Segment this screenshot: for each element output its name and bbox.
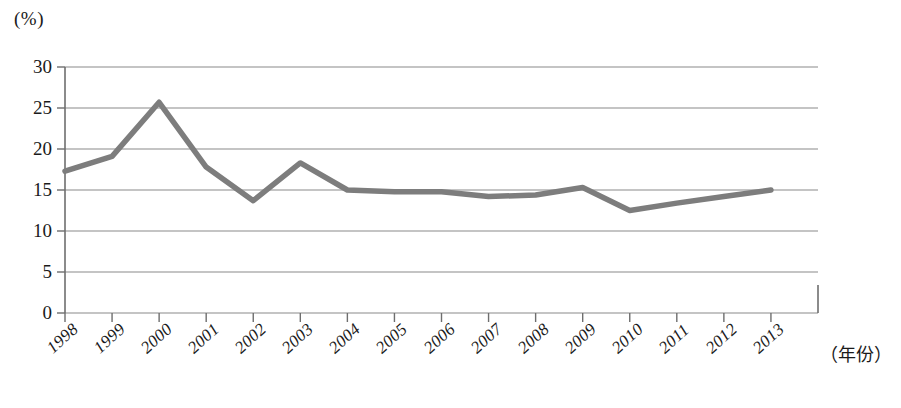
y-axis-tick-label: 20 [10,139,52,158]
line-chart: (%) 051015202530 19981999200020012002200… [0,0,901,408]
y-axis-tick-label: 10 [10,221,52,240]
y-axis-tick-label: 0 [10,303,52,322]
x-axis-title: （年份） [820,340,892,366]
y-axis-tick-label: 5 [10,262,52,281]
x-tick-marks-group [65,313,771,322]
y-axis-tick-label: 30 [10,57,52,76]
y-axis-tick-label: 15 [10,180,52,199]
data-line-series [65,102,771,210]
y-axis-tick-label: 25 [10,98,52,117]
data-series-group [65,102,771,210]
